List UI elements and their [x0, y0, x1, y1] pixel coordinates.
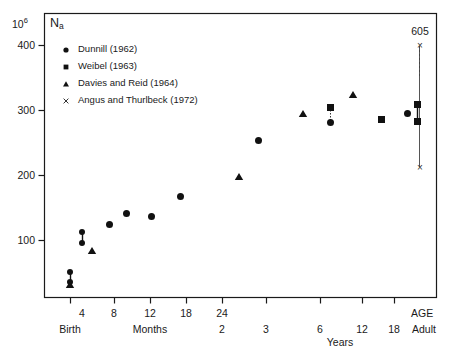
legend-label-davies-reid: Davies and Reid (1964)	[78, 77, 178, 88]
data-point-square	[378, 116, 385, 123]
triangle-marker-icon	[62, 78, 74, 90]
legend-label-dunnill: Dunnill (1962)	[78, 43, 137, 54]
data-point-triangle	[65, 275, 75, 293]
data-point-circle	[123, 210, 130, 217]
data-point-cross: ×	[414, 41, 426, 51]
x-tick-label-18months: 18	[166, 307, 206, 319]
data-point-circle	[327, 119, 334, 126]
data-point-circle	[79, 229, 85, 235]
y-tick-label-300: 300	[5, 104, 35, 116]
x-tick-label-adult: Adult	[404, 323, 444, 335]
y-axis-title-main: N	[50, 16, 59, 30]
x-tick-label-24months: 24	[202, 307, 242, 319]
scatter-chart-figure: 106 Na 400 300 200 100 Dunnill (1962) We…	[0, 0, 467, 349]
cross-marker-icon	[62, 95, 74, 107]
data-point-circle	[106, 221, 113, 228]
x-tick-label-2years: 2	[202, 323, 242, 335]
data-point-circle	[79, 240, 85, 246]
legend-label-angus-thurlbeck: Angus and Thurlbeck (1972)	[78, 94, 198, 105]
data-point-circle	[404, 110, 411, 117]
circle-marker-icon	[62, 44, 74, 56]
data-point-cross: ×	[414, 163, 426, 173]
data-point-square	[414, 101, 421, 108]
data-point-circle	[148, 213, 155, 220]
y-axis-title-sub: a	[59, 21, 64, 31]
data-point-circle	[255, 137, 262, 144]
square-marker-icon	[62, 61, 74, 73]
x-tick-label-3years: 3	[246, 323, 286, 335]
data-point-square	[327, 104, 334, 111]
x-tick-label-8months: 8	[94, 307, 134, 319]
y-tick-label-200: 200	[5, 169, 35, 181]
x-tick-label-6years: 6	[300, 323, 340, 335]
y-unit-exponent: 6	[24, 16, 28, 25]
x-axis-months-group-label: Months	[120, 323, 180, 335]
outlier-value-label: 605	[400, 25, 440, 37]
data-point-triangle	[298, 104, 308, 122]
plot-frame	[45, 14, 437, 298]
legend-label-weibel: Weibel (1963)	[78, 60, 137, 71]
x-axis-title: AGE	[411, 307, 433, 319]
y-axis-unit: 106	[12, 16, 28, 30]
y-axis-title: Na	[50, 16, 64, 30]
y-tick-label-400: 400	[5, 39, 35, 51]
data-point-triangle	[87, 241, 97, 259]
data-point-triangle	[348, 85, 358, 103]
y-tick-label-100: 100	[5, 234, 35, 246]
data-point-triangle	[234, 167, 244, 185]
data-point-circle	[177, 193, 184, 200]
x-tick-label-12months: 12	[130, 307, 170, 319]
data-point-square	[414, 118, 421, 125]
x-tick-label-birth: Birth	[40, 323, 100, 335]
x-axis-years-group-label: Years	[310, 336, 370, 348]
y-unit-base: 10	[12, 18, 24, 30]
